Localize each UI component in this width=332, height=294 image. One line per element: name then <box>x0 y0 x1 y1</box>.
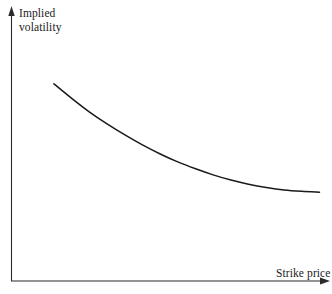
y-axis-arrow-icon <box>8 6 14 16</box>
y-axis-label-line-1: Implied <box>19 7 62 21</box>
y-axis-label-line-2: volatility <box>19 21 62 35</box>
chart-canvas <box>0 0 332 294</box>
volatility-curve <box>54 84 320 192</box>
y-axis-label: Implied volatility <box>19 7 62 34</box>
x-axis-label: Strike price <box>276 267 331 281</box>
volatility-skew-figure: Implied volatility Strike price <box>0 0 332 294</box>
